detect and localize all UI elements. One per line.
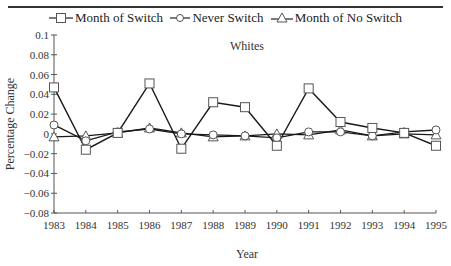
x-tick-label: 1987: [170, 219, 193, 231]
x-tick-label: 1990: [266, 219, 289, 231]
square-marker: [272, 141, 281, 150]
circle-marker: [432, 126, 440, 134]
square-marker: [368, 123, 377, 132]
y-tick-label: −0.04: [24, 167, 50, 179]
square-marker: [400, 128, 409, 137]
circle-marker: [241, 132, 249, 140]
chart-title: Whites: [230, 39, 264, 53]
circle-marker: [209, 131, 217, 139]
x-axis-title: Year: [236, 247, 258, 261]
circle-marker: [146, 125, 154, 133]
x-tick-label: 1984: [75, 219, 98, 231]
line-chart: Whites 0.10.080.060.040.020−0.02−0.04−0.…: [0, 0, 451, 266]
y-tick-label: 0.02: [30, 108, 49, 120]
data-series: [49, 79, 441, 154]
circle-marker: [305, 128, 313, 136]
square-marker: [432, 141, 441, 150]
x-tick-label: 1989: [234, 219, 257, 231]
x-tick-label: 1994: [393, 219, 416, 231]
y-tick-label: −0.08: [24, 207, 50, 219]
x-tick-label: 1991: [298, 219, 320, 231]
square-marker: [81, 145, 90, 154]
x-tick-label: 1988: [202, 219, 225, 231]
y-tick-label: 0: [44, 128, 50, 140]
square-marker: [145, 79, 154, 88]
circle-marker: [337, 128, 345, 136]
square-marker: [304, 84, 313, 93]
circle-marker: [50, 121, 58, 129]
y-tick-label: 0.04: [30, 88, 50, 100]
circle-marker: [82, 137, 90, 145]
circle-marker: [273, 134, 281, 142]
y-tick-label: 0.08: [30, 49, 50, 61]
y-tick-label: −0.02: [24, 148, 49, 160]
x-tick-label: 1985: [107, 219, 130, 231]
y-tick-label: 0.1: [35, 29, 49, 41]
y-tick-label: 0.06: [30, 69, 50, 81]
x-tick-label: 1993: [361, 219, 384, 231]
y-axis-title: Percentage Change: [3, 78, 17, 170]
square-marker: [50, 83, 59, 92]
square-marker: [209, 98, 218, 107]
circle-marker: [177, 130, 185, 138]
x-tick-label: 1992: [330, 219, 352, 231]
x-tick-label: 1983: [43, 219, 66, 231]
circle-marker: [368, 132, 376, 140]
y-tick-label: −0.06: [24, 187, 50, 199]
x-tick-label: 1986: [139, 219, 162, 231]
square-marker: [336, 118, 345, 127]
square-marker: [177, 144, 186, 153]
square-marker: [241, 103, 250, 112]
square-marker: [113, 128, 122, 137]
x-tick-label: 1995: [425, 219, 448, 231]
